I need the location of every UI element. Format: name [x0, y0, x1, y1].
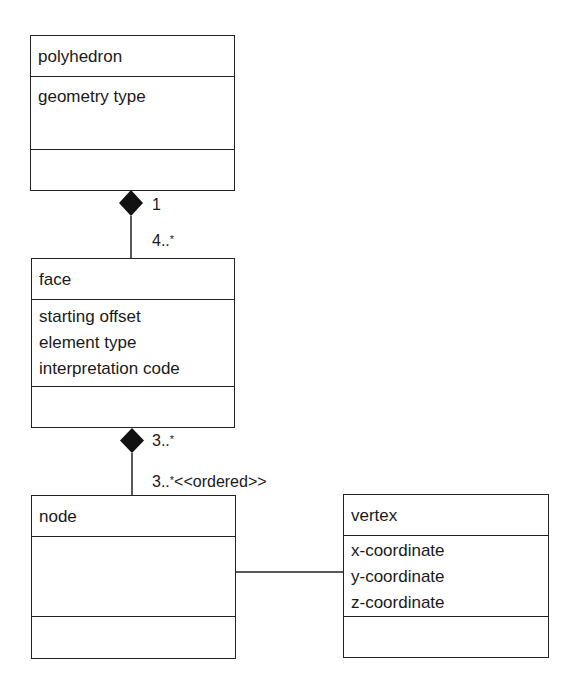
- attribute: interpretation code: [39, 359, 180, 379]
- class-name-compartment: node: [32, 496, 235, 537]
- class-name: polyhedron: [38, 47, 122, 67]
- multiplicity-label: 3..*<<ordered>>: [152, 473, 267, 491]
- attribute: z-coordinate: [351, 593, 445, 613]
- face-node-composition: [120, 428, 144, 495]
- operations-compartment: [344, 616, 548, 657]
- class-name: face: [39, 270, 71, 290]
- multiplicity-label: 1: [152, 196, 161, 214]
- attributes-compartment: starting offset element type interpretat…: [32, 299, 234, 387]
- polyhedron-face-composition: [119, 190, 143, 258]
- attributes-compartment: [32, 536, 235, 617]
- attribute: y-coordinate: [351, 567, 445, 587]
- composition-diamond-icon: [119, 190, 143, 216]
- attribute: starting offset: [39, 307, 141, 327]
- multiplicity-label: 3..*: [152, 432, 174, 450]
- composition-diamond-icon: [120, 428, 144, 453]
- operations-compartment: [32, 386, 234, 427]
- attribute: geometry type: [38, 87, 146, 107]
- operations-compartment: [31, 149, 234, 190]
- class-face[interactable]: face starting offset element type interp…: [31, 258, 235, 428]
- operations-compartment: [32, 616, 235, 657]
- class-name-compartment: polyhedron: [31, 36, 234, 77]
- attribute: x-coordinate: [351, 541, 445, 561]
- attributes-compartment: geometry type: [31, 76, 234, 150]
- class-name: vertex: [351, 506, 397, 526]
- class-node[interactable]: node: [31, 495, 236, 659]
- class-name-compartment: face: [32, 259, 234, 300]
- ordered-constraint: <<ordered>>: [174, 473, 267, 490]
- class-name: node: [39, 507, 77, 527]
- class-polyhedron[interactable]: polyhedron geometry type: [30, 35, 235, 191]
- attribute: element type: [39, 333, 136, 353]
- attributes-compartment: x-coordinate y-coordinate z-coordinate: [344, 535, 548, 617]
- multiplicity-label: 4..*: [152, 232, 174, 250]
- class-name-compartment: vertex: [344, 495, 548, 536]
- class-vertex[interactable]: vertex x-coordinate y-coordinate z-coord…: [343, 494, 549, 658]
